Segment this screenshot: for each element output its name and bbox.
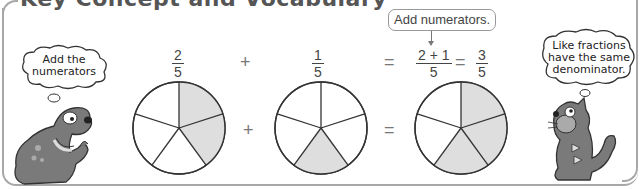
fraction-two-fifths: 2 5 [172,47,184,80]
dog-character-icon [4,100,124,186]
pie-three-fifths [412,80,510,176]
pie-equals-sign: = [384,120,395,141]
add-numerators-callout: Add numerators. [388,9,496,31]
dog-thought-text: Add the numerators [22,54,106,78]
fraction-sum-expression: 2 + 1 5 [416,47,452,80]
equals-sign-2: = [455,52,466,73]
pie-two-fifths [130,80,228,176]
plus-sign: + [240,52,251,73]
cat-character-icon [544,96,624,184]
fraction-three-fifths: 3 5 [476,47,488,80]
card-corner [2,0,18,22]
pie-plus-sign: + [243,120,254,141]
pie-one-fifth [272,80,370,176]
callout-arrow-icon [428,41,434,46]
fraction-one-fifth: 1 5 [312,47,324,80]
cat-thought-text: Like fractions have the same denominator… [544,40,634,76]
equals-sign: = [384,52,395,73]
